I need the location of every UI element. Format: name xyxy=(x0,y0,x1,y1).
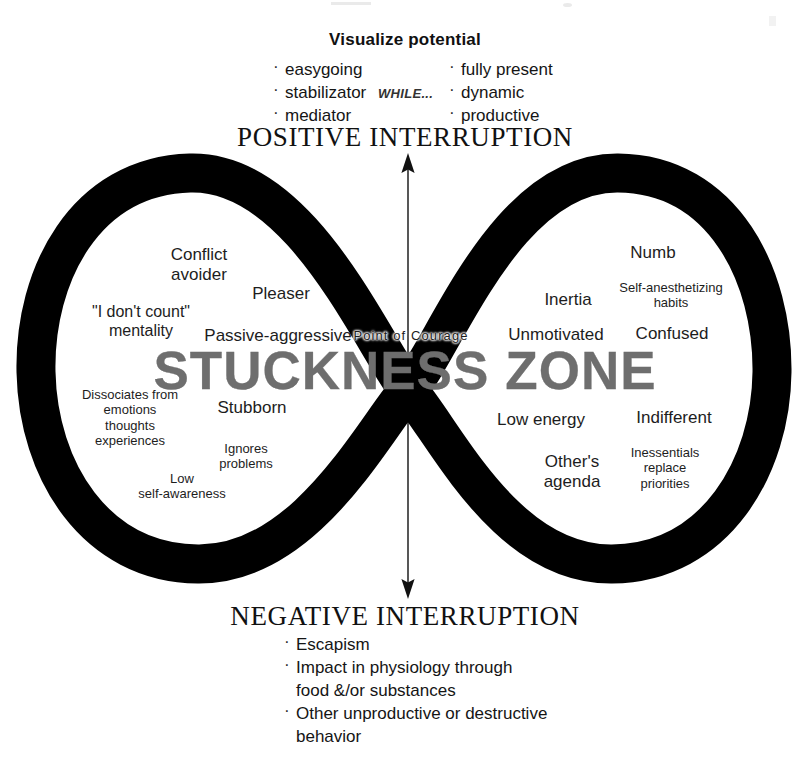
left-lobe-word-conflict-avoider: Conflictavoider xyxy=(171,245,228,285)
right-lobe-word-unmotivated: Unmotivated xyxy=(508,325,603,345)
visualize-right-item: dynamic xyxy=(448,81,553,104)
left-lobe-word-pleaser: Pleaser xyxy=(252,284,310,304)
negative-interruption-heading: NEGATIVE INTERRUPTION xyxy=(230,601,579,632)
visualize-right-item: fully present xyxy=(448,58,553,81)
negative-interruption-arrow xyxy=(401,579,414,599)
point-of-courage-label: Point of Courage xyxy=(353,328,468,343)
negative-item: Escapism xyxy=(283,633,547,656)
negative-interruption-list: Escapism Impact in physiology through fo… xyxy=(283,633,547,748)
visualize-right-list: fully present dynamic productive xyxy=(448,58,553,127)
visualize-left-list: easygoing stabilizator mediator xyxy=(272,58,366,127)
visualize-potential-title: Visualize potential xyxy=(329,30,481,50)
scan-artifact xyxy=(563,3,572,7)
right-lobe-word-inertia: Inertia xyxy=(544,290,591,310)
right-lobe-word-others-agenda: Other'sagenda xyxy=(544,452,601,492)
visualize-left-item: easygoing xyxy=(272,58,366,81)
while-label: WHILE... xyxy=(378,86,433,101)
scan-artifact xyxy=(331,2,371,5)
right-lobe-word-low-energy: Low energy xyxy=(497,410,585,430)
left-lobe-word-ignores-problems: Ignoresproblems xyxy=(219,441,272,472)
right-lobe-word-self-anesthetizing-habits: Self-anesthetizinghabits xyxy=(619,280,722,311)
right-lobe-word-confused: Confused xyxy=(636,324,709,344)
left-lobe-word-dissociates: Dissociates fromemotionsthoughtsexperien… xyxy=(82,387,178,448)
left-lobe-word-stubborn: Stubborn xyxy=(218,398,287,418)
negative-item-cont: behavior xyxy=(283,725,547,748)
diagram-canvas: Visualize potential easygoing stabilizat… xyxy=(0,0,811,766)
stuckness-zone-watermark: STUCKNESSZONE xyxy=(153,344,656,397)
right-lobe-word-inessentials-replace-priorities: Inessentialsreplacepriorities xyxy=(631,445,700,491)
positive-interruption-arrow xyxy=(401,153,414,173)
negative-item-cont: food &/or substances xyxy=(283,679,547,702)
right-lobe-word-numb: Numb xyxy=(630,243,675,263)
left-lobe-word-i-dont-count-mentality: "I don't count"mentality xyxy=(92,303,190,341)
scan-artifact xyxy=(769,16,776,26)
negative-item: Impact in physiology through xyxy=(283,656,547,679)
visualize-left-item: stabilizator xyxy=(272,81,366,104)
negative-item: Other unproductive or destructive xyxy=(283,702,547,725)
right-lobe-word-indifferent: Indifferent xyxy=(636,408,711,428)
positive-interruption-heading: POSITIVE INTERRUPTION xyxy=(237,122,573,153)
left-lobe-word-low-self-awareness: Lowself-awareness xyxy=(138,471,225,502)
left-lobe-word-passive-aggressive: Passive-aggressive xyxy=(204,326,351,346)
